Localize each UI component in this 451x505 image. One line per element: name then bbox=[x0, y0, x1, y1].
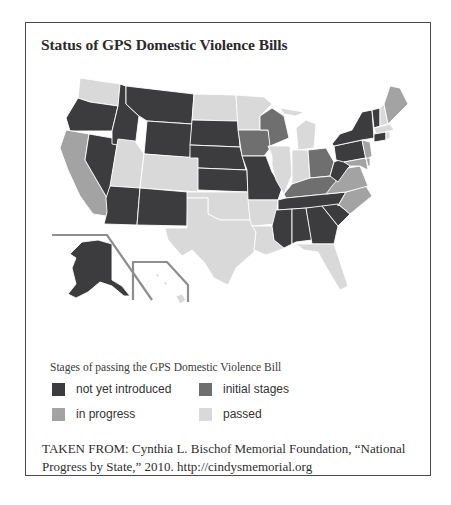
legend-item-in-progress: in progress bbox=[52, 407, 135, 421]
state-KS bbox=[198, 168, 248, 192]
swatch-initial bbox=[199, 383, 212, 396]
state-AK bbox=[68, 240, 130, 298]
state-WY bbox=[144, 121, 192, 158]
state-AZ bbox=[104, 186, 140, 225]
state-CO bbox=[140, 154, 200, 192]
source-citation: TAKEN FROM: Cynthia L. Bischof Memorial … bbox=[42, 440, 422, 476]
state-NY bbox=[332, 110, 374, 146]
legend-item-initial: initial stages bbox=[199, 382, 289, 396]
legend-item-not-yet: not yet introduced bbox=[52, 382, 171, 396]
state-IA bbox=[238, 130, 272, 156]
legend-item-passed: passed bbox=[199, 407, 262, 421]
state-FL bbox=[296, 244, 348, 290]
legend-label-not-yet: not yet introduced bbox=[76, 382, 171, 396]
swatch-passed bbox=[199, 408, 212, 421]
swatch-in-progress bbox=[52, 408, 65, 421]
state-ND bbox=[192, 94, 238, 121]
state-CT bbox=[374, 132, 386, 142]
legend-label-passed: passed bbox=[223, 407, 262, 421]
legend-label-initial: initial stages bbox=[223, 382, 289, 396]
state-OH bbox=[308, 148, 334, 178]
state-NE bbox=[190, 145, 246, 170]
state-ME bbox=[384, 86, 408, 124]
legend-label-in-progress: in progress bbox=[76, 407, 135, 421]
state-NM bbox=[137, 188, 188, 226]
us-map bbox=[0, 0, 451, 505]
state-SD bbox=[190, 120, 240, 147]
state-RI bbox=[386, 132, 390, 140]
swatch-not-yet bbox=[52, 383, 65, 396]
legend-title: Stages of passing the GPS Domestic Viole… bbox=[50, 361, 281, 373]
